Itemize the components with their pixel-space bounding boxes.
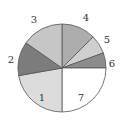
slice-label-3: 3 <box>31 14 37 25</box>
slice-label-4: 4 <box>83 12 89 23</box>
pie-chart: 4567123 <box>0 0 122 120</box>
slice-label-5: 5 <box>104 34 110 45</box>
slice-label-7: 7 <box>78 92 84 103</box>
slice-label-1: 1 <box>39 92 45 103</box>
slice-label-6: 6 <box>109 58 115 69</box>
slice-label-2: 2 <box>8 54 14 65</box>
pie-slices <box>18 24 106 112</box>
pie-slice-7 <box>62 68 106 112</box>
